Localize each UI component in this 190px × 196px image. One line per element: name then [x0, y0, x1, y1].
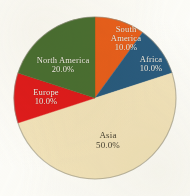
pie-chart-canvas [0, 0, 190, 196]
pie-chart-figure: South America 10.0% Africa 10.0% Asia 50… [0, 0, 190, 196]
pie-slices-group [14, 17, 176, 179]
